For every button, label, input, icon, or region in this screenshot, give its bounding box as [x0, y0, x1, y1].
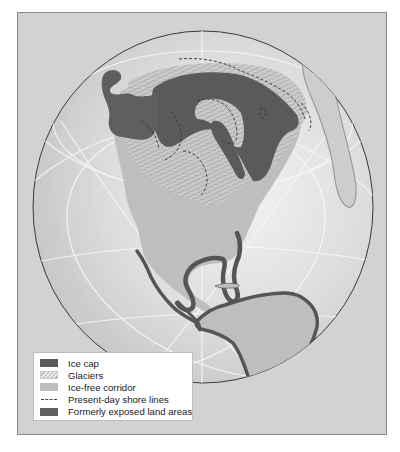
legend-label: Present-day shore lines — [68, 394, 169, 405]
exposed-land-swatch-icon — [40, 408, 58, 416]
legend-item-ice-free-corridor: Ice-free corridor — [40, 381, 192, 393]
legend-item-ice-cap: Ice cap — [40, 357, 192, 369]
glacier-swatch-icon — [40, 371, 58, 379]
dashed-line-icon — [41, 399, 57, 400]
map-frame: Ice cap Glaciers Ice-free corridor Prese… — [17, 12, 387, 435]
legend-item-glaciers: Glaciers — [40, 369, 192, 381]
ice-free-corridor-swatch-icon — [40, 383, 58, 391]
legend-label: Formerly exposed land areas — [68, 406, 192, 417]
ice-cap-swatch-icon — [40, 359, 58, 367]
legend-label: Ice-free corridor — [68, 382, 136, 393]
legend-label: Glaciers — [68, 370, 103, 381]
legend-item-formerly-exposed-land-areas: Formerly exposed land areas — [40, 406, 192, 418]
map-legend: Ice cap Glaciers Ice-free corridor Prese… — [33, 352, 193, 421]
legend-label: Ice cap — [68, 358, 99, 369]
legend-item-present-day-shore-lines: Present-day shore lines — [40, 394, 192, 406]
